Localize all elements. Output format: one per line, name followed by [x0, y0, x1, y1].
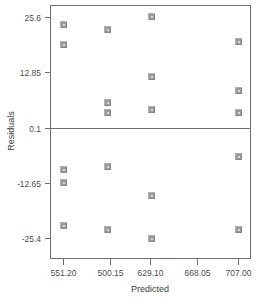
- y-tick-label: -25.4: [22, 234, 42, 244]
- data-point-layer: [61, 14, 242, 242]
- data-point-marker-core: [63, 182, 65, 184]
- plot-canvas: 25.6 12.85 0.1 -12.65 -25.4 551.20 500.1…: [0, 0, 259, 302]
- data-point-marker-core: [238, 229, 240, 231]
- plot-frame: [51, 6, 251, 259]
- data-point-marker-core: [238, 156, 240, 158]
- x-tick-label: 629.10: [138, 268, 164, 278]
- y-tick-labels: 25.6 12.85 0.1 -12.65 -25.4: [17, 13, 41, 244]
- x-tick-label: 551.20: [51, 268, 77, 278]
- data-point-marker-core: [151, 195, 153, 197]
- data-point-marker-core: [63, 24, 65, 26]
- x-tick-labels: 551.20 500.15 629.10 668.05 707.00: [51, 268, 252, 278]
- data-point-marker-core: [151, 238, 153, 240]
- y-axis-ticks: [45, 18, 51, 239]
- y-tick-label: -12.65: [17, 179, 41, 189]
- data-point-marker-core: [63, 169, 65, 171]
- y-tick-label: 12.85: [20, 68, 42, 78]
- data-point-marker-core: [107, 112, 109, 114]
- data-point-marker-core: [151, 16, 153, 18]
- data-point-marker-core: [63, 225, 65, 227]
- x-tick-label: 668.05: [185, 268, 211, 278]
- data-point-marker-core: [151, 109, 153, 111]
- y-axis-title: Residuals: [6, 111, 16, 151]
- data-point-marker-core: [238, 41, 240, 43]
- x-tick-label: 500.15: [98, 268, 124, 278]
- y-tick-label: 25.6: [24, 13, 41, 23]
- residual-plot: 25.6 12.85 0.1 -12.65 -25.4 551.20 500.1…: [0, 0, 259, 302]
- data-point-marker-core: [238, 90, 240, 92]
- y-tick-label: 0.1: [29, 124, 41, 134]
- data-point-marker-core: [238, 112, 240, 114]
- x-axis-ticks: [64, 259, 239, 265]
- data-point-marker-core: [107, 166, 109, 168]
- data-point-marker-core: [107, 102, 109, 104]
- data-point-marker-core: [63, 44, 65, 46]
- data-point-marker-core: [107, 229, 109, 231]
- x-axis-title: Predicted: [131, 284, 169, 294]
- data-point-marker-core: [151, 76, 153, 78]
- x-tick-label: 707.00: [226, 268, 252, 278]
- data-point-marker-core: [107, 29, 109, 31]
